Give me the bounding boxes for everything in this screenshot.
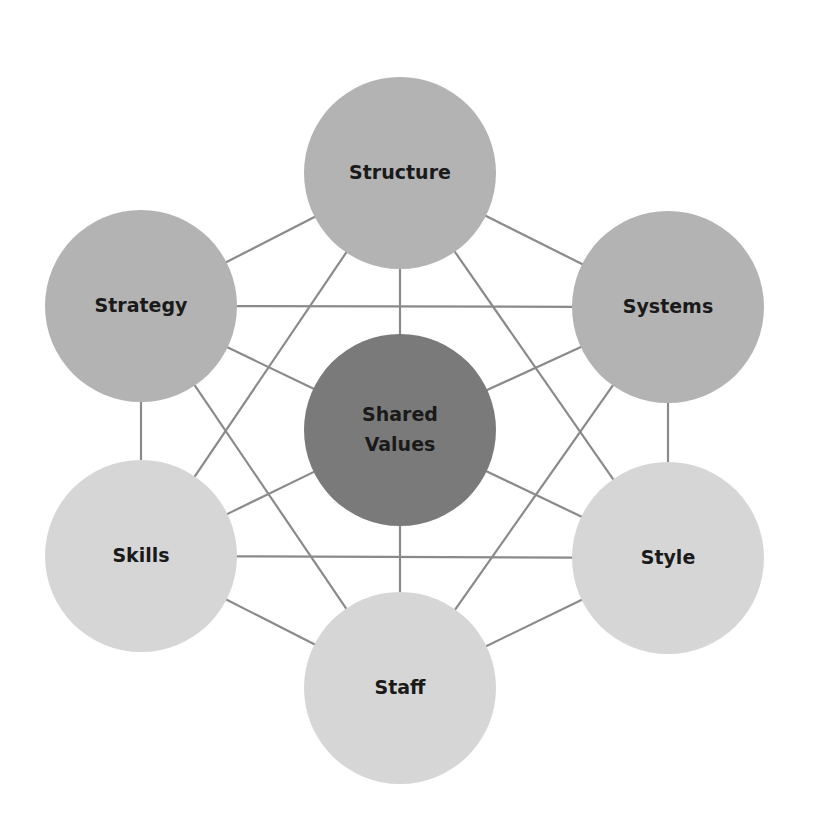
shared-values-circle: [304, 334, 496, 526]
connector-skills-staff: [225, 599, 316, 646]
connector-strategy-shared-values: [226, 347, 315, 390]
connector-shared-values-skills: [226, 471, 316, 515]
shared-values-label: Values: [365, 433, 436, 455]
node-systems: Systems: [572, 211, 764, 403]
staff-label: Staff: [375, 676, 427, 698]
connector-structure-systems: [484, 215, 584, 265]
systems-label: Systems: [623, 295, 713, 317]
shared-values-label: Shared: [362, 403, 438, 425]
node-skills: Skills: [45, 460, 237, 652]
element-circles: StructureStrategySystemsSharedValuesSkil…: [45, 77, 764, 784]
connector-strategy-systems: [235, 306, 574, 307]
connector-shared-values-style: [485, 471, 583, 518]
connector-style-staff: [485, 599, 584, 647]
node-shared-values: SharedValues: [304, 334, 496, 526]
node-staff: Staff: [304, 592, 496, 784]
seven-s-diagram: StructureStrategySystemsSharedValuesSkil…: [0, 0, 819, 829]
structure-label: Structure: [349, 161, 451, 183]
connector-structure-strategy: [225, 216, 317, 263]
skills-label: Skills: [112, 544, 169, 566]
style-label: Style: [641, 546, 696, 568]
strategy-label: Strategy: [95, 294, 189, 316]
node-style: Style: [572, 462, 764, 654]
node-strategy: Strategy: [45, 210, 237, 402]
node-structure: Structure: [304, 77, 496, 269]
connector-skills-style: [235, 556, 574, 557]
connector-systems-shared-values: [485, 346, 582, 391]
